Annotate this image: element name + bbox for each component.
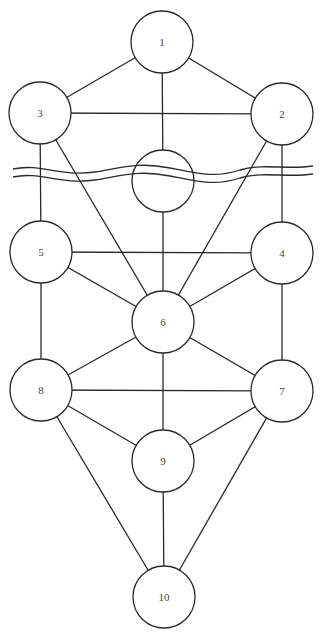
node-label: 5: [38, 246, 44, 258]
path-2-6: [163, 114, 282, 322]
node-label: 10: [159, 591, 171, 603]
sephira-node-8: 8: [10, 359, 72, 421]
node-circle: [132, 150, 194, 212]
sephira-node-6: 6: [132, 291, 194, 353]
node-label: 6: [160, 316, 166, 328]
sephira-node-3: 3: [9, 82, 71, 144]
sephira-node-2: 2: [251, 83, 313, 145]
node-label: 4: [279, 247, 285, 259]
node-label: 9: [160, 455, 166, 467]
node-label: 8: [38, 384, 44, 396]
sephira-node-9: 9: [132, 430, 194, 492]
path-7-10: [164, 391, 282, 597]
node-label: 2: [279, 108, 285, 120]
sephira-node-5: 5: [10, 221, 72, 283]
node-label: 1: [159, 36, 165, 48]
sephirot-layer: 12345678910: [9, 11, 313, 628]
sephira-node-4: 4: [251, 222, 313, 284]
path-3-2: [40, 113, 282, 114]
node-label: 7: [279, 385, 285, 397]
sephira-node-1: 1: [131, 11, 193, 73]
sephira-node-7: 7: [251, 360, 313, 422]
sephira-node-daath: [132, 150, 194, 212]
tree-of-life-diagram: 12345678910: [0, 0, 322, 638]
sephira-node-10: 10: [133, 566, 195, 628]
path-3-6: [40, 113, 163, 322]
path-5-4: [41, 252, 282, 253]
path-8-7: [41, 390, 282, 391]
path-8-10: [41, 390, 164, 597]
node-label: 3: [37, 107, 43, 119]
